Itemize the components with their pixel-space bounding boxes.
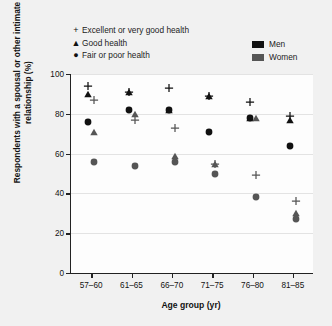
data-point — [211, 170, 218, 177]
y-axis-tick — [66, 154, 71, 155]
x-axis-tick-label: 57–60 — [80, 281, 103, 290]
data-point — [292, 216, 299, 223]
y-axis-tick-label: 60 — [55, 149, 64, 158]
triangle-marker-icon: ▲ — [70, 37, 82, 50]
y-axis-tick — [66, 233, 71, 234]
y-axis-tick-label: 20 — [55, 229, 64, 238]
data-point — [90, 158, 97, 165]
legend-health-categories: + Excellent or very good health ▲ Good h… — [70, 24, 189, 62]
plus-marker-icon: + — [70, 24, 82, 37]
x-axis-tick-label: 76–80 — [241, 281, 264, 290]
data-point — [286, 116, 294, 124]
x-axis-tick-label: 66–70 — [160, 281, 183, 290]
data-point — [170, 123, 179, 132]
legend-item-excellent: + Excellent or very good health — [70, 24, 189, 37]
data-point — [131, 110, 139, 118]
data-point — [90, 128, 98, 136]
y-axis-tick — [66, 74, 71, 75]
legend-item-men: Men — [252, 38, 297, 51]
data-point — [165, 106, 172, 113]
legend-item-women: Women — [252, 51, 297, 64]
y-axis-tick-label: 80 — [55, 109, 64, 118]
legend-item-good: ▲ Good health — [70, 37, 189, 50]
data-point — [164, 83, 173, 92]
x-axis-tick — [172, 273, 173, 278]
x-axis-title: Age group (yr) — [60, 300, 322, 310]
men-color-swatch — [252, 41, 264, 48]
data-point — [171, 158, 178, 165]
x-axis-tick-label: 61–65 — [120, 281, 143, 290]
data-point — [90, 95, 99, 104]
gridline — [71, 74, 313, 75]
figure: + Excellent or very good health ▲ Good h… — [0, 0, 332, 326]
y-axis-tick — [66, 273, 71, 274]
x-axis-tick — [91, 273, 92, 278]
gridline — [71, 233, 313, 234]
women-color-swatch — [252, 54, 264, 61]
data-point — [84, 81, 93, 90]
circle-marker-icon: ● — [70, 49, 82, 62]
legend-label-men: Men — [269, 38, 285, 51]
data-point — [84, 118, 91, 125]
plot-area: 02040608010057–6061–6566–7071–7576–8081–… — [70, 74, 313, 274]
data-point — [245, 97, 254, 106]
gridline — [71, 114, 313, 115]
x-axis-tick — [212, 273, 213, 278]
data-point — [251, 171, 260, 180]
y-axis-tick-label: 0 — [59, 269, 64, 278]
legend-sex-series: Men Women — [252, 38, 297, 64]
legend-label-excellent: Excellent or very good health — [82, 24, 189, 37]
y-axis-tick — [66, 193, 71, 194]
y-axis-tick-label: 40 — [55, 189, 64, 198]
data-point — [252, 194, 259, 201]
y-axis-title: Respondents with a spousal or other inti… — [12, 0, 33, 197]
x-axis-tick — [293, 273, 294, 278]
y-axis-tick-label: 100 — [50, 70, 64, 79]
y-axis-tick — [66, 114, 71, 115]
legend-item-fair-poor: ● Fair or poor health — [70, 49, 189, 62]
x-axis-tick — [253, 273, 254, 278]
data-point — [125, 88, 133, 96]
data-point — [252, 114, 260, 122]
data-point — [205, 128, 212, 135]
data-point — [131, 162, 138, 169]
x-axis-tick-label: 81–85 — [281, 281, 304, 290]
x-axis-tick-label: 71–75 — [201, 281, 224, 290]
legend-label-fair-poor: Fair or poor health — [82, 49, 150, 62]
data-point — [205, 92, 213, 100]
x-axis-tick — [132, 273, 133, 278]
data-point — [291, 197, 300, 206]
gridline — [71, 193, 313, 194]
gridline — [71, 154, 313, 155]
legend-label-good: Good health — [82, 37, 127, 50]
data-point — [211, 160, 219, 168]
legend-label-women: Women — [269, 51, 297, 64]
data-point — [286, 142, 293, 149]
